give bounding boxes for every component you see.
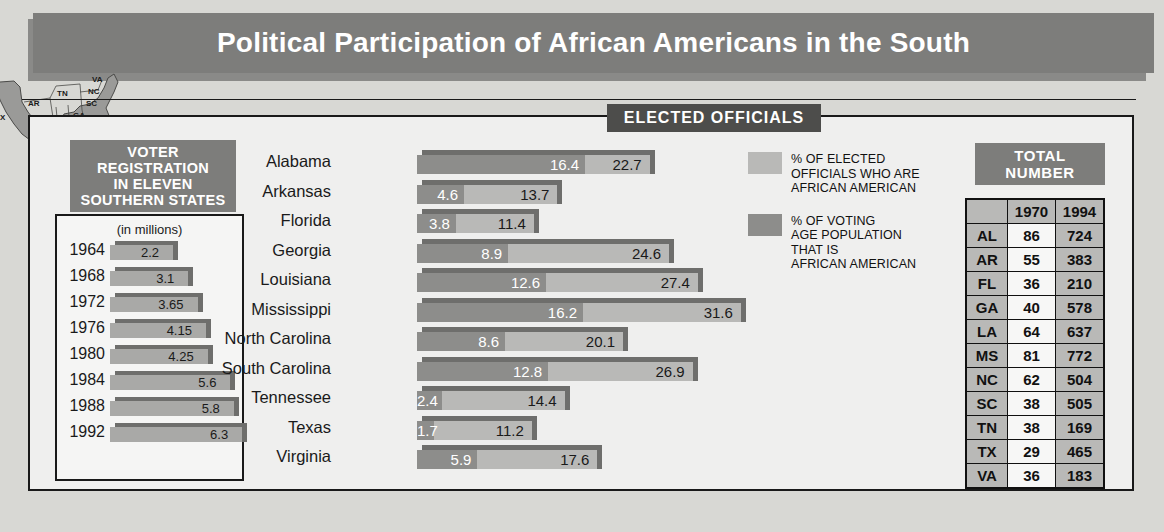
table-row: AR55383 (966, 248, 1104, 272)
vr-year-label: 1984 (57, 371, 110, 389)
table-row: TN38169 (966, 416, 1104, 440)
map-label-sc: SC (86, 99, 97, 108)
bar-elected-officials-value: 16.4 (417, 155, 585, 174)
bar-population-value: 11.2 (434, 421, 531, 440)
vr-year-label: 1976 (57, 319, 110, 337)
bar-geometry: 12.627.4 (417, 268, 704, 294)
table-value-cell: 86 (1008, 224, 1056, 248)
bar-elected-officials-value: 4.6 (417, 185, 464, 204)
table-value-cell: 505 (1056, 392, 1105, 416)
bar-row: North Carolina8.620.1 (265, 325, 735, 355)
table-value-cell: 38 (1008, 416, 1056, 440)
legend-label: % OF VOTINGAGE POPULATIONTHAT ISAFRICAN … (791, 214, 916, 272)
bar-population-value: 11.4 (456, 214, 534, 233)
total-number-header: TOTAL NUMBER (975, 143, 1105, 185)
legend-label-line: THAT IS (791, 243, 916, 258)
table-state-cell: TX (966, 440, 1008, 464)
bar-geometry: 12.826.9 (417, 357, 699, 383)
bar-population-value: 13.7 (464, 185, 557, 204)
bar-geometry: 5.917.6 (417, 445, 603, 471)
vr-header-line-4: SOUTHERN STATES (81, 192, 226, 208)
title-banner: Political Participation of African Ameri… (33, 13, 1154, 73)
table-state-cell: TN (966, 416, 1008, 440)
table-value-cell: 40 (1008, 296, 1056, 320)
vr-year-label: 1968 (57, 267, 110, 285)
table-value-cell: 578 (1056, 296, 1105, 320)
table-value-cell: 504 (1056, 368, 1105, 392)
page-title: Political Participation of African Ameri… (217, 27, 970, 59)
vr-bar: 2.2 (110, 241, 178, 260)
bar-geometry: 8.924.6 (417, 239, 675, 265)
bar-row: Alabama16.422.7 (265, 148, 735, 178)
bar-population-value: 17.6 (477, 450, 597, 469)
vr-year-label: 1992 (57, 423, 110, 441)
table-state-cell: GA (966, 296, 1008, 320)
table-row: SC38505 (966, 392, 1104, 416)
bar-population-value: 26.9 (548, 362, 693, 381)
bar-side-face (623, 332, 628, 351)
bar-geometry: 1.711.2 (417, 416, 538, 442)
bar-elected-officials-value: 16.2 (417, 303, 583, 322)
bar-side-face (557, 185, 562, 204)
table-value-cell: 724 (1056, 224, 1105, 248)
bar-elected-officials-value: 3.8 (417, 214, 456, 233)
bar-side-face (534, 214, 539, 233)
table-value-cell: 183 (1056, 464, 1105, 489)
legend-item: % OF ELECTEDOFFICIALS WHO AREAFRICAN AME… (748, 152, 938, 196)
bar-category-label: Mississippi (171, 300, 331, 319)
bar-row: Louisiana12.627.4 (265, 266, 735, 296)
table-row: TX29465 (966, 440, 1104, 464)
header-divider-line (22, 99, 1136, 100)
bar-row: Arkansas4.613.7 (265, 178, 735, 208)
legend-swatch (748, 214, 782, 236)
bar-category-label: North Carolina (171, 329, 331, 348)
table-col-header: 1970 (1008, 199, 1056, 224)
legend-label-line: % OF ELECTED (791, 152, 920, 167)
bar-population-value: 22.7 (585, 155, 650, 174)
bar-population-value: 24.6 (508, 244, 669, 263)
vr-header-line-1: VOTER (127, 144, 178, 160)
bar-side-face (741, 303, 746, 322)
elected-officials-header-label: ELECTED OFFICIALS (624, 109, 805, 127)
table-value-cell: 383 (1056, 248, 1105, 272)
table-row: GA40578 (966, 296, 1104, 320)
table-value-cell: 62 (1008, 368, 1056, 392)
bar-category-label: Texas (171, 418, 331, 437)
table-value-cell: 772 (1056, 344, 1105, 368)
bar-population-value: 31.6 (583, 303, 741, 322)
table-state-cell: AL (966, 224, 1008, 248)
legend-label-line: OFFICIALS WHO ARE (791, 167, 920, 182)
table-value-cell: 210 (1056, 272, 1105, 296)
bar-side-face (565, 391, 570, 410)
table-value-cell: 29 (1008, 440, 1056, 464)
bar-elected-officials-value: 12.8 (417, 362, 548, 381)
table-row: NC62504 (966, 368, 1104, 392)
legend-label-line: AFRICAN AMERICAN (791, 257, 916, 272)
tn-header-line-2: NUMBER (1005, 164, 1074, 181)
table-state-cell: SC (966, 392, 1008, 416)
map-label-va: VA (92, 75, 103, 84)
map-label-nc: NC (88, 87, 100, 96)
bar-side-face (693, 362, 698, 381)
legend-label: % OF ELECTEDOFFICIALS WHO AREAFRICAN AME… (791, 152, 920, 196)
tn-header-line-1: TOTAL (1014, 147, 1066, 164)
bar-category-label: South Carolina (171, 359, 331, 378)
table-value-cell: 169 (1056, 416, 1105, 440)
table-value-cell: 465 (1056, 440, 1105, 464)
table-col-header: 1994 (1056, 199, 1105, 224)
vr-year-label: 1988 (57, 397, 110, 415)
legend-label-line: AFRICAN AMERICAN (791, 181, 920, 196)
table-state-cell: MS (966, 344, 1008, 368)
vr-header-line-2: REGISTRATION (97, 160, 209, 176)
bar-category-label: Tennessee (171, 388, 331, 407)
bar-elected-officials-value: 8.6 (417, 332, 505, 351)
table-row: AL86724 (966, 224, 1104, 248)
table-row: LA64637 (966, 320, 1104, 344)
bar-side-face (597, 450, 602, 469)
bar-category-label: Georgia (171, 241, 331, 260)
bar-category-label: Louisiana (171, 270, 331, 289)
table-value-cell: 637 (1056, 320, 1105, 344)
map-label-tx: TX (0, 113, 6, 122)
table-header-row: 19701994 (966, 199, 1104, 224)
vr-year-label: 1972 (57, 293, 110, 311)
